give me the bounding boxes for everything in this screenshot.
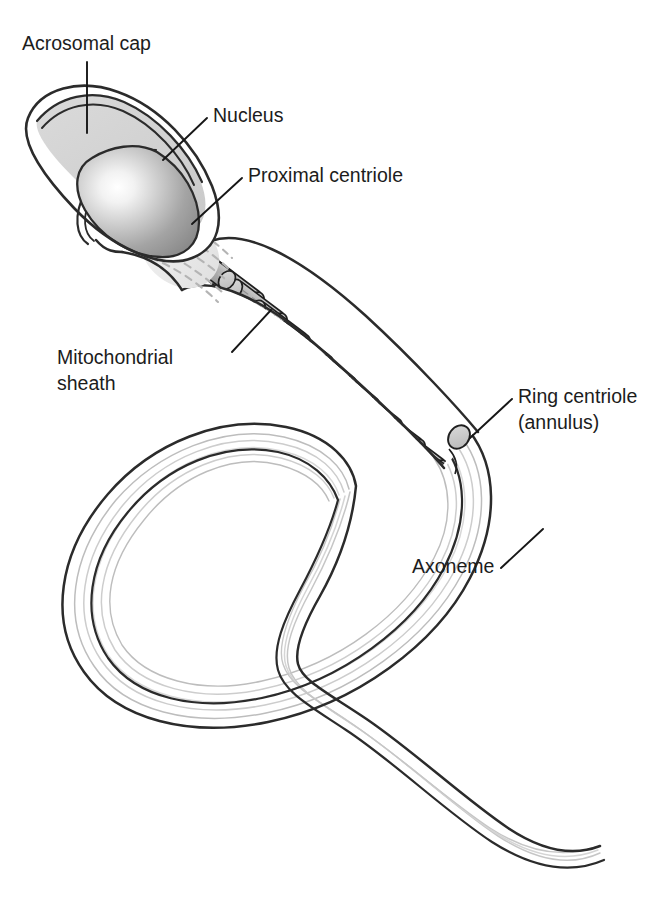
- leader-axoneme: [501, 529, 543, 568]
- diagram-canvas: Acrosomal cap Nucleus Proximal centriole…: [0, 0, 671, 901]
- label-ring-centriole-text-line2: (annulus): [518, 411, 599, 433]
- sperm-diagram-figure: Acrosomal cap Nucleus Proximal centriole…: [0, 0, 671, 901]
- label-nucleus-text: Nucleus: [213, 104, 284, 126]
- flagellum-tail: [62, 424, 604, 868]
- leader-mitochondrial-sheath: [232, 310, 271, 352]
- label-ring-centriole-text-line1: Ring centriole: [518, 385, 637, 407]
- label-mitochondrial-sheath-text-line2: sheath: [57, 372, 116, 394]
- label-mitochondrial-sheath-text-line1: Mitochondrial: [57, 346, 173, 368]
- label-mitochondrial-sheath[interactable]: Mitochondrial sheath: [57, 310, 271, 394]
- label-ring-centriole[interactable]: Ring centriole (annulus): [470, 385, 637, 438]
- label-proximal-centriole-text: Proximal centriole: [248, 164, 403, 186]
- label-axoneme-text: Axoneme: [412, 555, 494, 577]
- label-proximal-centriole[interactable]: Proximal centriole: [192, 164, 403, 224]
- label-acrosomal-cap-text: Acrosomal cap: [22, 32, 151, 54]
- leader-ring-centriole: [470, 399, 512, 438]
